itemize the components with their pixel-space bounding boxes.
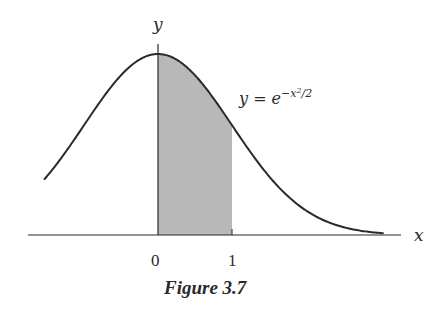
shaded-area xyxy=(158,54,232,235)
figure-plot: y x y = e−x2/2 0 1 Figure 3.7 xyxy=(0,0,448,311)
y-axis-label: y xyxy=(152,14,163,34)
curve-label: y = e−x2/2 xyxy=(238,86,312,108)
figure-caption: Figure 3.7 xyxy=(163,277,248,298)
x-axis-label: x xyxy=(414,225,424,245)
tick-label-1: 1 xyxy=(228,251,237,270)
tick-label-0: 0 xyxy=(151,251,160,270)
